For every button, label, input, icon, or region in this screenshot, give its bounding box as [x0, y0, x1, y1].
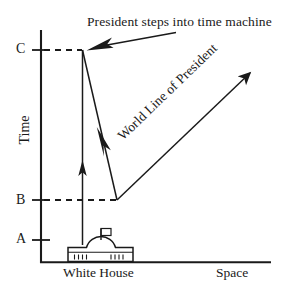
flag: [101, 229, 111, 236]
space-axis-label: Space: [216, 266, 248, 280]
space-tick-label-white-house: White House: [63, 266, 134, 280]
time-tick-label-a: A: [16, 232, 26, 246]
worldline-segment-backward: [83, 50, 118, 200]
worldline-arrowhead-backward: [97, 127, 111, 157]
time-tick-label-b: B: [16, 193, 25, 207]
time-tick-label-c: C: [16, 42, 25, 56]
world-line-time-machine-diagram: President steps into time machine C B A …: [0, 0, 304, 296]
diagram-canvas: [0, 0, 304, 296]
diagram-title: President steps into time machine: [87, 15, 272, 29]
worldline-segment-departing: [117, 73, 250, 200]
white-house-icon: [68, 229, 133, 262]
time-axis-label: Time: [18, 100, 32, 160]
